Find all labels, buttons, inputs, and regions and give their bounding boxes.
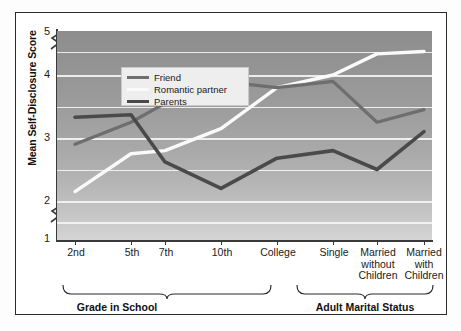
- x-label-2nd-line1: 2nd: [46, 247, 106, 259]
- y-tick-label-1: 1: [30, 232, 50, 244]
- legend-item-parents: Parents: [127, 95, 244, 107]
- legend-swatch-romantic-partner: [127, 88, 149, 91]
- x-tick-married-with-children: [424, 240, 425, 245]
- legend-swatch-parents: [127, 100, 149, 103]
- legend-swatch-friend: [127, 76, 149, 79]
- x-tick-college: [277, 240, 278, 245]
- x-label-college-line1: College: [248, 247, 308, 259]
- x-tick-single: [333, 240, 334, 245]
- series-lines: [57, 31, 432, 240]
- legend-label-parents: Parents: [154, 96, 187, 107]
- x-label-7th: 7th: [136, 247, 196, 259]
- group-label-grade-in-school: Grade in School: [62, 301, 172, 313]
- brace-adult-marital-status: [297, 285, 433, 299]
- x-label-7th-line1: 7th: [136, 247, 196, 259]
- x-tick-7th: [165, 240, 166, 245]
- y-tick-label-3: 3: [30, 131, 50, 143]
- legend-item-romantic-partner: Romantic partner: [127, 83, 244, 95]
- legend-item-friend: Friend: [127, 71, 244, 83]
- x-label-mw-line3: Children: [394, 270, 454, 282]
- line-parents: [75, 115, 424, 189]
- x-label-married-with-children: Married with Children: [394, 247, 454, 282]
- x-label-10th: 10th: [192, 247, 252, 259]
- plot-area: Friend Romantic partner Parents: [57, 31, 432, 240]
- x-label-mw-line1: Married: [394, 247, 454, 259]
- legend: Friend Romantic partner Parents: [121, 67, 249, 106]
- group-braces: [57, 283, 432, 299]
- x-tick-10th: [221, 240, 222, 245]
- x-label-10th-line1: 10th: [192, 247, 252, 259]
- x-label-college: College: [248, 247, 308, 259]
- legend-label-romantic-partner: Romantic partner: [154, 84, 227, 95]
- x-label-2nd: 2nd: [46, 247, 106, 259]
- x-tick-married-without-children: [377, 240, 378, 245]
- group-label-adult-marital-status: Adult Marital Status: [295, 301, 435, 313]
- y-tick-label-4: 4: [30, 68, 50, 80]
- x-tick-5th: [131, 240, 132, 245]
- legend-label-friend: Friend: [154, 72, 181, 83]
- figure-container: Mean Self-Disclosure Score 5 4 3 2 1 Fri…: [0, 0, 461, 331]
- brace-grade-in-school: [63, 285, 271, 299]
- x-tick-2nd: [75, 240, 76, 245]
